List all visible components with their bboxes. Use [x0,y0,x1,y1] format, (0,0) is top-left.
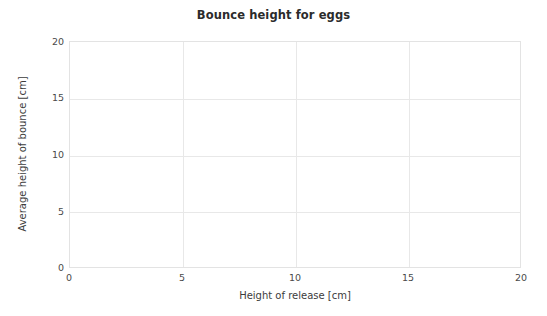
x-tick-label-15: 15 [388,272,428,283]
x-axis-title: Height of release [cm] [69,290,521,302]
x-tick-label-10: 10 [275,272,315,283]
x-tick-label-20: 20 [501,272,541,283]
gridline-horizontal-10 [70,156,520,157]
x-axis-tick-labels: 0 5 10 15 20 [69,272,521,286]
x-tick-label-0: 0 [49,272,89,283]
y-tick-label-5: 5 [24,207,64,217]
gridline-vertical-15 [409,42,410,267]
y-tick-label-10: 10 [24,150,64,160]
chart-title: Bounce height for eggs [0,8,547,22]
gridline-horizontal-15 [70,99,520,100]
gridline-horizontal-5 [70,212,520,213]
gridline-vertical-10 [296,42,297,267]
x-tick-label-5: 5 [162,272,202,283]
gridline-vertical-5 [183,42,184,267]
y-tick-label-20: 20 [24,37,64,47]
chart-figure: Bounce height for eggs 20 15 10 5 0 0 5 … [0,0,547,316]
y-tick-label-15: 15 [24,93,64,103]
plot-area [69,41,521,268]
y-axis-title: Average height of bounce [cm] [17,41,29,268]
